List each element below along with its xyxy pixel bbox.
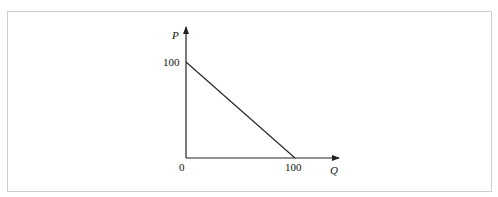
demand-diagram: P 100 0 100 Q <box>0 0 498 197</box>
origin-label: 0 <box>179 161 185 173</box>
y-axis-label: P <box>171 29 179 41</box>
demand-line <box>186 62 295 158</box>
x-axis-label: Q <box>330 164 338 176</box>
x-intercept-label: 100 <box>285 161 302 173</box>
y-intercept-label: 100 <box>163 56 180 68</box>
